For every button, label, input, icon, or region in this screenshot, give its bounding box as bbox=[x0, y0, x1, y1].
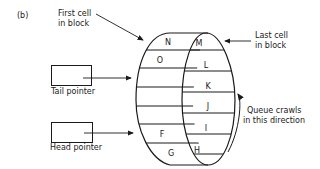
cell-f: F bbox=[160, 130, 165, 139]
cell-n: N bbox=[165, 38, 171, 47]
outer-left-edge bbox=[136, 33, 170, 165]
queue-ring-diagram bbox=[0, 0, 320, 169]
cell-g: G bbox=[168, 149, 174, 158]
cell-i: I bbox=[205, 124, 207, 133]
first-cell-arrow bbox=[96, 14, 143, 40]
inner-cell-dividers bbox=[180, 50, 240, 154]
cell-l: L bbox=[204, 61, 208, 70]
cell-m: M bbox=[196, 39, 203, 48]
cell-o: O bbox=[157, 56, 163, 65]
cell-k: K bbox=[205, 82, 210, 91]
cell-j: J bbox=[207, 102, 209, 111]
inner-ellipse bbox=[182, 33, 235, 165]
cell-h: H bbox=[194, 146, 200, 155]
